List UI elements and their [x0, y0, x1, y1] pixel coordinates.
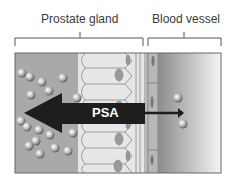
psa-diagram	[0, 0, 233, 181]
vessel-bracket	[148, 32, 221, 46]
psa-label: PSA	[92, 105, 119, 120]
prostate-bracket	[15, 32, 143, 46]
